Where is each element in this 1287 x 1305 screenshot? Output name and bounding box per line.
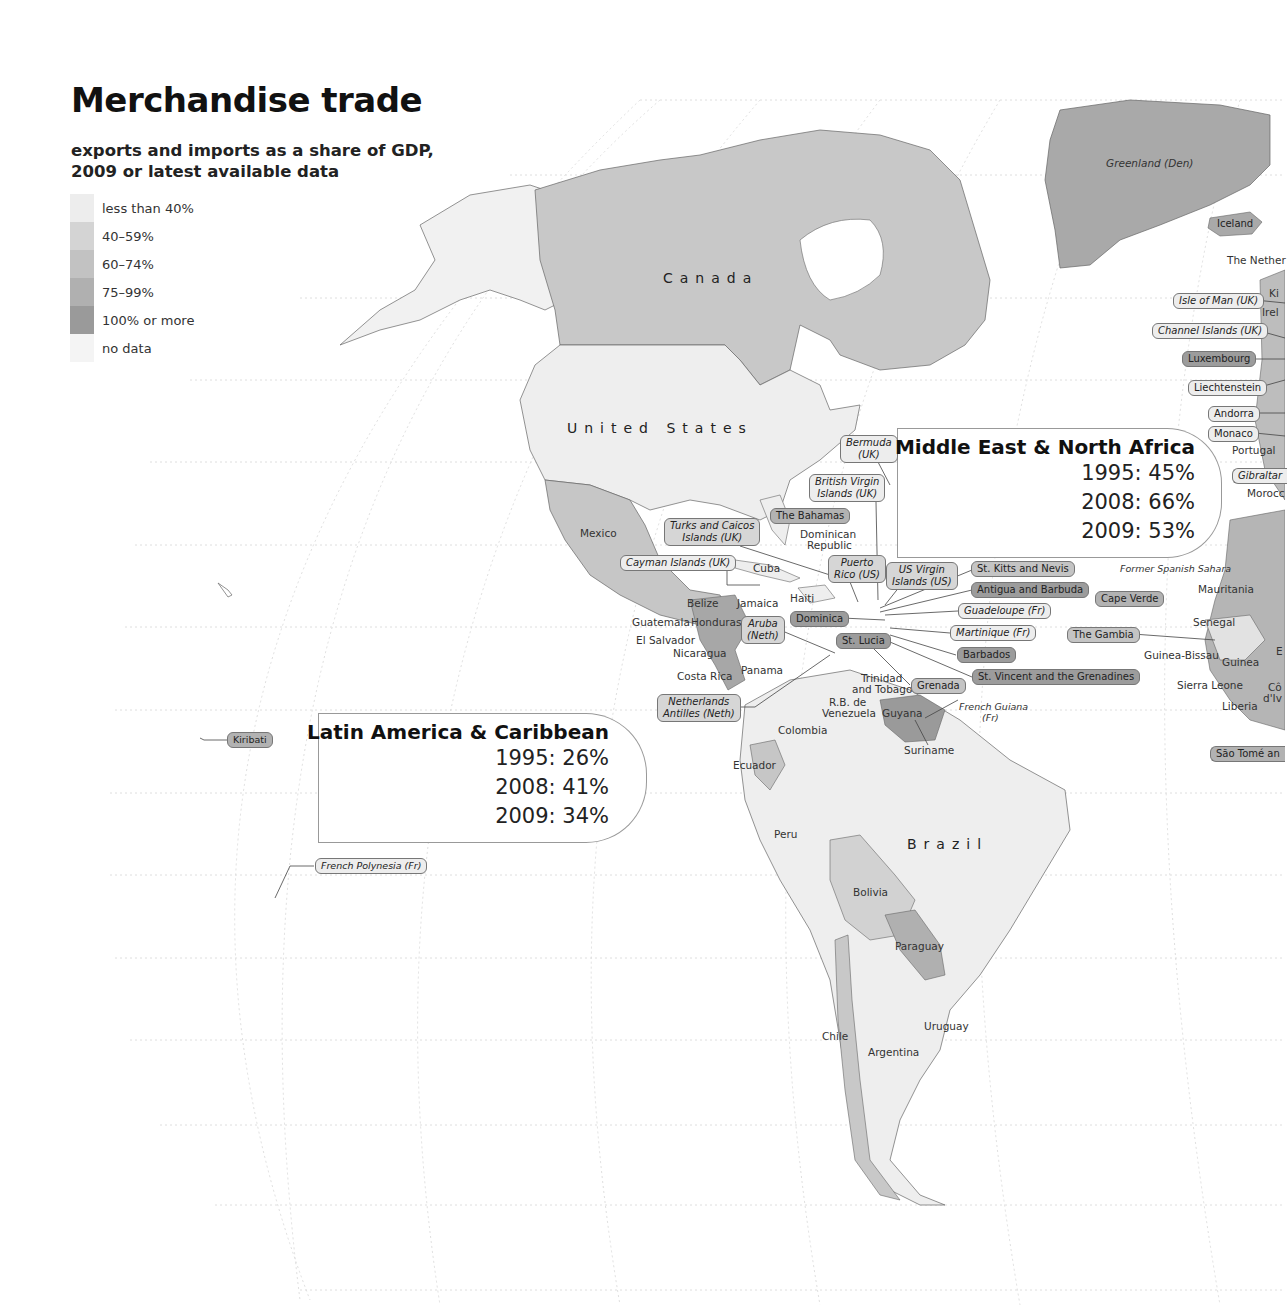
label-french-guiana-1: French Guiana xyxy=(959,701,1028,712)
pill-st-kitts: St. Kitts and Nevis xyxy=(971,561,1075,577)
pill-puerto-rico: Puerto Rico (US) xyxy=(828,555,886,583)
pill-channel-islands: Channel Islands (UK) xyxy=(1152,323,1268,339)
legend-swatch xyxy=(70,306,94,334)
label-senegal: Senegal xyxy=(1193,616,1235,628)
label-ecuador: Ecuador xyxy=(733,759,776,771)
label-costa-rica: Costa Rica xyxy=(677,670,733,682)
legend-label: 60–74% xyxy=(102,257,154,272)
label-mexico: Mexico xyxy=(580,527,617,539)
pill-aruba-line1: Aruba xyxy=(747,618,779,630)
label-chile: Chile xyxy=(822,1030,848,1042)
label-guinea: Guinea xyxy=(1222,656,1259,668)
pill-bermuda-line2: (UK) xyxy=(846,449,892,461)
pill-usvi-line1: US Virgin xyxy=(892,564,952,576)
callout-mena-content: Middle East & North Africa 1995: 45% 200… xyxy=(895,435,1195,546)
legend-item-lt40: less than 40% xyxy=(70,194,194,222)
legend-label: less than 40% xyxy=(102,201,194,216)
label-sierra-leone: Sierra Leone xyxy=(1177,679,1243,691)
pill-martinique: Martinique (Fr) xyxy=(950,625,1036,641)
callout-mena-1995: 1995: 45% xyxy=(895,459,1195,488)
label-suriname: Suriname xyxy=(904,744,954,756)
label-greenland: Greenland (Den) xyxy=(1106,157,1193,169)
alaska-shape xyxy=(340,185,565,345)
pill-french-polynesia: French Polynesia (Fr) xyxy=(315,858,427,874)
callout-lac-2008: 2008: 41% xyxy=(307,773,609,802)
pill-liechtenstein: Liechtenstein xyxy=(1188,380,1267,396)
pill-bermuda-line1: Bermuda xyxy=(846,437,892,449)
legend-item-40-59: 40–59% xyxy=(70,222,194,250)
legend-item-75-99: 75–99% xyxy=(70,278,194,306)
pill-dominica: Dominica xyxy=(790,611,849,627)
label-e-cut: E xyxy=(1276,645,1283,657)
legend: less than 40% 40–59% 60–74% 75–99% 100% … xyxy=(70,194,194,362)
label-mauritania: Mauritania xyxy=(1198,583,1254,595)
pill-turks-line2: Islands (UK) xyxy=(670,532,754,544)
pill-andorra: Andorra xyxy=(1208,406,1260,422)
legend-label: 75–99% xyxy=(102,285,154,300)
pill-bvi-line2: Islands (UK) xyxy=(815,488,879,500)
label-jamaica: Jamaica xyxy=(737,597,778,609)
legend-label: 40–59% xyxy=(102,229,154,244)
pill-aruba-line2: (Neth) xyxy=(747,630,779,642)
label-colombia: Colombia xyxy=(778,724,827,736)
callout-mena: Middle East & North Africa 1995: 45% 200… xyxy=(897,428,1168,558)
legend-swatch xyxy=(70,222,94,250)
label-dominican-republic-2: Republic xyxy=(807,539,852,551)
label-portugal: Portugal xyxy=(1232,444,1276,456)
label-nicaragua: Nicaragua xyxy=(673,647,726,659)
label-cote-cut-2: d'Iv xyxy=(1263,692,1282,704)
subtitle-line-1: exports and imports as a share of GDP, xyxy=(71,140,434,161)
map-title: Merchandise trade xyxy=(71,80,422,120)
label-netherlands-cut: The Nether xyxy=(1227,254,1286,266)
pill-bvi-line1: British Virgin xyxy=(815,476,879,488)
pill-barbados: Barbados xyxy=(957,647,1016,663)
hawaii-shape xyxy=(218,583,232,597)
label-ireland-cut: Irel xyxy=(1262,306,1279,318)
pill-cape-verde: Cape Verde xyxy=(1095,591,1164,607)
label-cuba: Cuba xyxy=(753,562,780,574)
legend-label: 100% or more xyxy=(102,313,194,328)
pill-the-gambia: The Gambia xyxy=(1067,627,1140,643)
pill-bermuda: Bermuda (UK) xyxy=(840,435,898,463)
pill-us-virgin-islands: US Virgin Islands (US) xyxy=(886,562,958,590)
pill-grenada: Grenada xyxy=(911,678,966,694)
pill-bahamas: The Bahamas xyxy=(770,508,850,524)
pill-isle-of-man: Isle of Man (UK) xyxy=(1173,293,1264,309)
pill-cayman-islands: Cayman Islands (UK) xyxy=(620,555,736,571)
pill-kiribati: Kiribati xyxy=(227,732,273,748)
pill-turks-line1: Turks and Caicos xyxy=(670,520,754,532)
pill-st-vincent: St. Vincent and the Grenadines xyxy=(972,669,1140,685)
pill-neth-antilles-line1: Netherlands xyxy=(663,696,735,708)
label-guyana: Guyana xyxy=(882,707,923,719)
pill-usvi-line2: Islands (US) xyxy=(892,576,952,588)
label-uruguay: Uruguay xyxy=(924,1020,969,1032)
legend-label: no data xyxy=(102,341,152,356)
callout-lac-2009: 2009: 34% xyxy=(307,802,609,831)
label-liberia: Liberia xyxy=(1222,700,1258,712)
greenland-shape xyxy=(1045,100,1270,268)
pill-monaco: Monaco xyxy=(1208,426,1259,442)
label-united-states: United States xyxy=(567,420,753,436)
label-paraguay: Paraguay xyxy=(895,940,944,952)
callout-mena-title: Middle East & North Africa xyxy=(895,435,1195,459)
callout-mena-2009: 2009: 53% xyxy=(895,517,1195,546)
pill-puerto-rico-line2: Rico (US) xyxy=(834,569,880,581)
legend-item-100plus: 100% or more xyxy=(70,306,194,334)
pill-luxembourg: Luxembourg xyxy=(1182,351,1256,367)
callout-lac-1995: 1995: 26% xyxy=(307,744,609,773)
label-guinea-bissau: Guinea-Bissau xyxy=(1144,649,1219,661)
legend-item-no-data: no data xyxy=(70,334,194,362)
pill-british-virgin-islands: British Virgin Islands (UK) xyxy=(809,474,885,502)
label-brazil: Brazil xyxy=(907,836,988,852)
legend-swatch xyxy=(70,334,94,362)
label-honduras: Honduras xyxy=(691,616,742,628)
subtitle-line-2: 2009 or latest available data xyxy=(71,161,434,182)
legend-swatch xyxy=(70,250,94,278)
legend-swatch xyxy=(70,278,94,306)
pill-st-lucia: St. Lucia xyxy=(836,633,891,649)
callout-lac-title: Latin America & Caribbean xyxy=(307,720,609,744)
label-trinidad-2: and Tobago xyxy=(852,683,912,695)
callout-lac: Latin America & Caribbean 1995: 26% 2008… xyxy=(318,713,587,843)
label-argentina: Argentina xyxy=(868,1046,919,1058)
label-bolivia: Bolivia xyxy=(853,886,888,898)
